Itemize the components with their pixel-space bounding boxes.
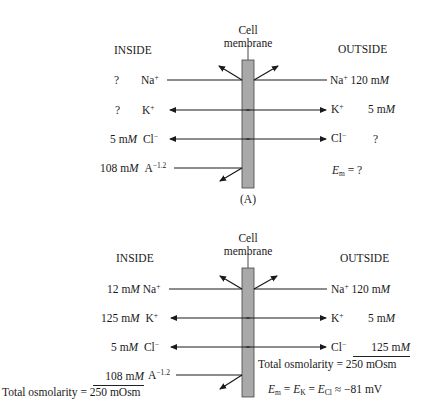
- na-efflux-arrow-b: [220, 276, 242, 289]
- membrane-bar: [242, 60, 254, 188]
- membrane-bar-b: [242, 268, 254, 397]
- na-inside-conc: ?: [114, 75, 119, 87]
- na-ion-outside: Na+ 120 mM: [330, 75, 389, 87]
- em-question: Em = ?: [332, 165, 362, 177]
- membrane-label-line1: Cell: [228, 25, 268, 37]
- na-efflux-arrow: [219, 66, 242, 80]
- na-ion-inside: Na+: [141, 75, 159, 87]
- em-equation: Em = EK = ECl ≈ −81 mV: [268, 384, 382, 396]
- a-arrow: [220, 168, 242, 181]
- inside-label-b: INSIDE: [116, 253, 154, 265]
- k-ion-outside: K+: [331, 104, 344, 116]
- membrane-label-b-line1: Cell: [228, 233, 268, 245]
- na-inside-b: 12 mM Na+: [107, 284, 160, 296]
- membrane-label-line2: membrane: [218, 38, 278, 50]
- cl-inside-b: 5 mM Cl−: [111, 342, 159, 354]
- panel-b-graphics: [169, 253, 327, 397]
- outside-label-b: OUTSIDE: [340, 253, 389, 265]
- na-efflux-arrow-2: [254, 66, 278, 80]
- outside-label: OUTSIDE: [338, 44, 387, 56]
- panel-a-label: (A): [233, 194, 263, 206]
- inside-label: INSIDE: [114, 45, 152, 57]
- anion-inside: 108 mM A−1.2: [100, 163, 166, 175]
- k-ion-outside-b: K+: [331, 313, 344, 325]
- panel-a-graphics: [167, 45, 327, 188]
- k-ion-inside: K+: [142, 105, 155, 117]
- cl-ion-outside: Cl−: [331, 133, 346, 145]
- na-efflux-arrow-b2: [254, 276, 277, 289]
- k-outside-conc: 5 mM: [368, 104, 395, 116]
- anion-inside-conc-b: 108 mM: [93, 371, 144, 386]
- inside-total-osmolarity: Total osmolarity = 250 mOsm: [2, 387, 141, 399]
- a-arrow-b: [220, 375, 242, 389]
- membrane-label-b-line2: membrane: [218, 246, 278, 258]
- cl-inside: 5 mM Cl−: [110, 134, 158, 146]
- outside-total-osmolarity: Total osmolarity = 250 mOsm: [258, 359, 397, 371]
- k-outside-conc-b: 5 mM: [368, 313, 395, 325]
- na-outside-b: Na+ 120 mM: [331, 284, 390, 296]
- k-inside-b: 125 mM K+: [101, 313, 158, 325]
- cl-outside-conc: ?: [373, 134, 378, 146]
- k-inside-conc: ?: [115, 105, 120, 117]
- cl-outside-conc-b: 125 mM: [353, 342, 410, 357]
- anion-ion-b: A−1.2: [148, 370, 170, 382]
- cl-ion-outside-b: Cl−: [331, 342, 346, 354]
